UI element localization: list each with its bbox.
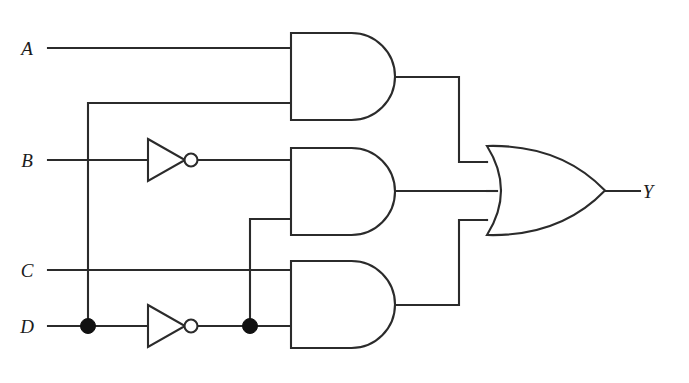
inverter-inv_d-triangle [148, 305, 185, 347]
input-label-D: D [19, 316, 34, 337]
logic-circuit-diagram: ABCDY [0, 0, 689, 383]
circuit-canvas: ABCDY [0, 0, 689, 383]
wire-w_dnot_branch_up [250, 219, 291, 326]
wire-w_and3_out [395, 220, 487, 305]
gate-and2-and [291, 148, 395, 235]
junction-dot-j_d_tap [81, 319, 96, 334]
gate-or1-or [487, 146, 605, 235]
inverter-inv_d-bubble-icon [185, 320, 198, 333]
gate-and1-and [291, 33, 395, 120]
input-label-B: B [21, 150, 33, 171]
wire-w_and1_out [395, 77, 487, 162]
inverter-layer [148, 139, 198, 347]
input-label-A: A [19, 38, 33, 59]
gate-and3-and [291, 261, 395, 348]
wire-w_d_branch_up [88, 103, 291, 326]
inverter-inv_b-bubble-icon [185, 154, 198, 167]
input-label-C: C [21, 260, 34, 281]
output-label-Y: Y [643, 181, 656, 202]
inverter-inv_b-triangle [148, 139, 185, 181]
junction-dot-j_dnot_tap [243, 319, 258, 334]
